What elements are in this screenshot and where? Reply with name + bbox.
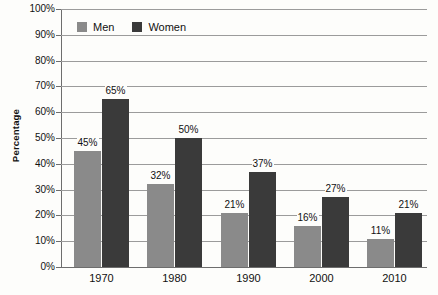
bar-value-label: 37% bbox=[251, 158, 273, 169]
bar-value-label: 21% bbox=[397, 199, 419, 210]
y-axis-tick-label: 10% bbox=[13, 236, 55, 246]
bar-women-1970[interactable]: 65% bbox=[102, 99, 129, 267]
y-axis-tick bbox=[56, 267, 61, 268]
bar-value-label: 50% bbox=[177, 124, 199, 135]
bar-women-1990[interactable]: 37% bbox=[249, 172, 276, 267]
legend-item-women: Women bbox=[132, 21, 186, 33]
bar-men-1990[interactable]: 21% bbox=[221, 213, 248, 267]
y-axis-tick-label: 80% bbox=[13, 56, 55, 66]
x-axis-line bbox=[61, 267, 427, 268]
bar-value-label: 21% bbox=[223, 199, 245, 210]
x-axis-tick-label: 1980 bbox=[135, 272, 215, 284]
bar-women-2000[interactable]: 27% bbox=[322, 197, 349, 267]
y-axis-tick-label: 50% bbox=[13, 133, 55, 143]
bar-value-label: 45% bbox=[76, 137, 98, 148]
legend-label-men: Men bbox=[93, 21, 114, 33]
bar-value-label: 32% bbox=[149, 170, 171, 181]
bar-women-2010[interactable]: 21% bbox=[395, 213, 422, 267]
bar-women-1980[interactable]: 50% bbox=[175, 138, 202, 267]
bar-men-1970[interactable]: 45% bbox=[74, 151, 101, 267]
bar-layer: 45%65%32%50%21%37%16%27%11%21% bbox=[61, 9, 427, 267]
y-axis-tick-label: 20% bbox=[13, 210, 55, 220]
x-axis-tick-label: 2000 bbox=[282, 272, 362, 284]
bar-group: 11%21% bbox=[367, 9, 422, 267]
bar-value-label: 65% bbox=[104, 85, 126, 96]
y-axis-tick-label: 30% bbox=[13, 185, 55, 195]
bar-men-1980[interactable]: 32% bbox=[147, 184, 174, 267]
bar-men-2010[interactable]: 11% bbox=[367, 239, 394, 267]
bar-group: 21%37% bbox=[221, 9, 276, 267]
y-axis-tick-label: 100% bbox=[13, 4, 55, 14]
legend-label-women: Women bbox=[148, 21, 186, 33]
x-axis-tick-label: 1970 bbox=[62, 272, 142, 284]
bar-value-label: 27% bbox=[324, 183, 346, 194]
y-axis-tick-label: 70% bbox=[13, 81, 55, 91]
bar-chart: Percentage 0%10%20%30%40%50%60%70%80%90%… bbox=[0, 0, 438, 295]
bar-group: 16%27% bbox=[294, 9, 349, 267]
y-axis-tick-label: 90% bbox=[13, 30, 55, 40]
y-axis-tick-label: 40% bbox=[13, 159, 55, 169]
legend: Men Women bbox=[75, 20, 192, 34]
x-axis-tick-label: 2010 bbox=[355, 272, 435, 284]
bar-men-2000[interactable]: 16% bbox=[294, 226, 321, 267]
y-axis-tick-label: 60% bbox=[13, 107, 55, 117]
x-axis-tick-label: 1990 bbox=[209, 272, 289, 284]
bar-value-label: 11% bbox=[370, 225, 391, 236]
bar-group: 45%65% bbox=[74, 9, 129, 267]
legend-swatch-men bbox=[77, 22, 87, 32]
y-axis-tick-label: 0% bbox=[13, 262, 55, 272]
bar-value-label: 16% bbox=[296, 212, 318, 223]
bar-group: 32%50% bbox=[147, 9, 202, 267]
plot-area: 0%10%20%30%40%50%60%70%80%90%100% Men Wo… bbox=[61, 9, 427, 267]
legend-item-men: Men bbox=[77, 21, 114, 33]
legend-swatch-women bbox=[132, 22, 142, 32]
